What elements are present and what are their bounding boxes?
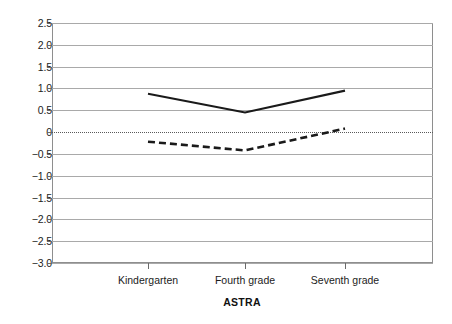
gridline bbox=[52, 110, 433, 111]
zero-reference-line bbox=[52, 132, 433, 133]
gridline bbox=[52, 176, 433, 177]
y-axis-tick-mark bbox=[47, 263, 52, 264]
y-axis-tick: 2.0 bbox=[0, 40, 52, 50]
gridline bbox=[52, 88, 433, 89]
gridline bbox=[52, 263, 433, 264]
x-axis-tick-mark bbox=[148, 263, 149, 269]
x-axis-tick-label: Kindergarten bbox=[118, 274, 178, 286]
x-axis-tick-label: Seventh grade bbox=[311, 274, 379, 286]
y-axis-tick: −2.5 bbox=[0, 236, 52, 246]
x-axis-title: ASTRA bbox=[0, 296, 452, 308]
plot-area-frame bbox=[52, 23, 433, 263]
chart-figure: 2.52.01.51.00.50−0.5−1.0−1.5−2.0−2.5−3.0… bbox=[0, 0, 452, 324]
y-axis-tick-label: 2.0 bbox=[6, 40, 52, 50]
y-axis-tick-label: −0.5 bbox=[6, 149, 52, 159]
y-axis-tick: −1.5 bbox=[0, 193, 52, 203]
y-axis-tick: 0 bbox=[0, 127, 52, 137]
y-axis-tick-label: −1.5 bbox=[6, 193, 52, 203]
y-axis-tick: 1.0 bbox=[0, 83, 52, 93]
y-axis-tick: −1.0 bbox=[0, 171, 52, 181]
x-axis-tick-mark bbox=[245, 263, 246, 269]
y-axis-tick-mark bbox=[47, 67, 52, 68]
y-axis-tick-label: 2.5 bbox=[6, 18, 52, 28]
gridline bbox=[52, 45, 433, 46]
y-axis-tick: 1.5 bbox=[0, 62, 52, 72]
y-axis-tick: 0.5 bbox=[0, 105, 52, 115]
y-axis-tick-mark bbox=[47, 23, 52, 24]
y-axis-tick-label: −3.0 bbox=[6, 258, 52, 268]
y-axis-tick-label: −2.0 bbox=[6, 214, 52, 224]
gridline bbox=[52, 23, 433, 24]
gridline bbox=[52, 219, 433, 220]
y-axis-tick-mark bbox=[47, 198, 52, 199]
x-axis-title-text: ASTRA bbox=[223, 296, 261, 308]
y-axis-tick-mark bbox=[47, 241, 52, 242]
y-axis-tick: −0.5 bbox=[0, 149, 52, 159]
y-axis-tick-label: −1.0 bbox=[6, 171, 52, 181]
y-axis-tick-mark bbox=[47, 45, 52, 46]
y-axis-tick-label: 0 bbox=[6, 127, 52, 137]
y-axis-tick: −2.0 bbox=[0, 214, 52, 224]
y-axis-tick-label: 1.0 bbox=[6, 83, 52, 93]
gridline bbox=[52, 154, 433, 155]
y-axis-tick-mark bbox=[47, 88, 52, 89]
gridline bbox=[52, 67, 433, 68]
y-axis-tick-mark bbox=[47, 154, 52, 155]
y-axis-tick: 2.5 bbox=[0, 18, 52, 28]
gridline bbox=[52, 198, 433, 199]
y-axis-tick-label: −2.5 bbox=[6, 236, 52, 246]
y-axis-tick-mark bbox=[47, 132, 52, 133]
y-axis-tick-mark bbox=[47, 110, 52, 111]
gridline bbox=[52, 241, 433, 242]
y-axis-tick-mark bbox=[47, 176, 52, 177]
x-axis-tick-mark bbox=[345, 263, 346, 269]
y-axis-tick-label: 0.5 bbox=[6, 105, 52, 115]
y-axis-tick-mark bbox=[47, 219, 52, 220]
y-axis-tick-label: 1.5 bbox=[6, 62, 52, 72]
x-axis-tick-label: Fourth grade bbox=[215, 274, 275, 286]
y-axis-tick: −3.0 bbox=[0, 258, 52, 268]
